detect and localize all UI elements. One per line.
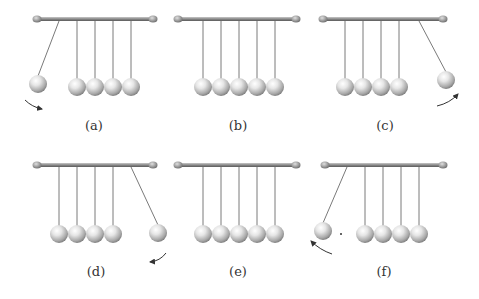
motion-arrow-icon — [25, 100, 42, 109]
support-bar — [325, 163, 443, 167]
motion-arrow-icon — [311, 241, 332, 254]
pendulum-ball — [104, 78, 122, 96]
support-bar — [178, 163, 296, 167]
pendulum-ball — [194, 225, 212, 243]
swinging-ball — [314, 222, 332, 240]
panel-label-e: (e) — [229, 264, 247, 279]
pendulum-ball — [68, 78, 86, 96]
pendulum-ball — [212, 78, 230, 96]
support-bar — [37, 17, 153, 21]
pendulum-ball — [230, 225, 248, 243]
bar-end-cap-right — [149, 162, 158, 169]
panel-label-f: (f) — [377, 264, 392, 279]
pendulum-string — [38, 21, 59, 76]
pendulum-ball — [336, 78, 354, 96]
pendulum-ball — [390, 78, 408, 96]
pendulum-ball — [410, 225, 428, 243]
support-bar — [178, 17, 296, 21]
bar-end-cap-right — [292, 16, 301, 23]
bar-end-cap-left — [321, 162, 330, 169]
pendulum-ball — [266, 78, 284, 96]
pendulum-ball — [104, 225, 122, 243]
cradle-panel-f — [311, 162, 448, 255]
pendulum-ball — [392, 225, 410, 243]
bar-end-cap-left — [33, 162, 42, 169]
cradle-diagram — [0, 0, 479, 299]
cradle-panel-e — [174, 162, 301, 244]
cradle-panel-d — [33, 162, 168, 263]
panel-label-b: (b) — [229, 118, 247, 133]
swinging-ball — [437, 71, 455, 89]
pendulum-ball — [248, 78, 266, 96]
panel-label-c: (c) — [376, 118, 393, 133]
pendulum-ball — [68, 225, 86, 243]
pendulum-ball — [230, 78, 248, 96]
pendulum-ball — [266, 225, 284, 243]
pendulum-string — [323, 167, 347, 223]
pendulum-ball — [50, 225, 68, 243]
pendulum-ball — [86, 78, 104, 96]
dot-mark — [340, 233, 342, 235]
bar-end-cap-left — [174, 162, 183, 169]
motion-arrow-icon — [437, 94, 458, 106]
bar-end-cap-right — [439, 16, 448, 23]
pendulum-ball — [86, 225, 104, 243]
pendulum-string — [419, 21, 446, 72]
pendulum-ball — [212, 225, 230, 243]
pendulum-ball — [356, 225, 374, 243]
pendulum-ball — [372, 78, 390, 96]
pendulum-ball — [194, 78, 212, 96]
panel-label-a: (a) — [85, 118, 103, 133]
swinging-ball — [149, 224, 167, 242]
bar-end-cap-right — [149, 16, 158, 23]
bar-end-cap-left — [33, 16, 42, 23]
newtons-cradle-figure: (a)(b)(c)(d)(e)(f) — [0, 0, 479, 299]
cradle-panel-a — [25, 16, 158, 110]
swinging-ball — [29, 75, 47, 93]
panel-label-d: (d) — [87, 264, 105, 279]
support-bar — [37, 163, 153, 167]
cradle-panel-b — [174, 16, 301, 97]
motion-arrow-icon — [150, 253, 166, 262]
pendulum-string — [131, 167, 158, 225]
pendulum-ball — [354, 78, 372, 96]
pendulum-ball — [248, 225, 266, 243]
pendulum-ball — [122, 78, 140, 96]
cradle-panel-c — [319, 16, 459, 107]
pendulum-ball — [374, 225, 392, 243]
bar-end-cap-right — [292, 162, 301, 169]
bar-end-cap-left — [319, 16, 328, 23]
bar-end-cap-left — [174, 16, 183, 23]
support-bar — [323, 17, 443, 21]
bar-end-cap-right — [439, 162, 448, 169]
